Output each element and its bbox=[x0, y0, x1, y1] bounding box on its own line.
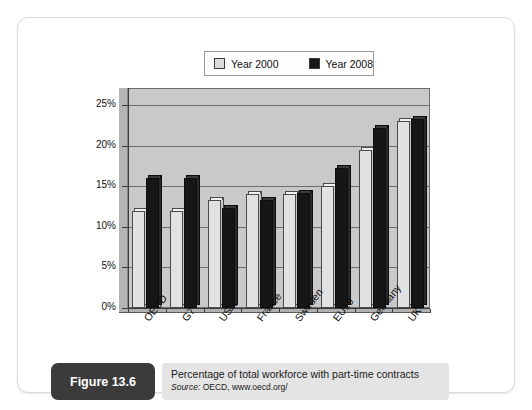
bar-side-face bbox=[235, 205, 238, 305]
bar-front-face bbox=[260, 200, 273, 308]
x-axis-tick bbox=[128, 309, 129, 313]
x-axis-tick bbox=[430, 309, 431, 313]
x-axis-tick bbox=[317, 309, 318, 313]
bar-sweden-year-2008 bbox=[297, 193, 310, 308]
bar-front-face bbox=[283, 194, 296, 308]
bar-oecd-year-2008 bbox=[146, 178, 159, 308]
x-axis-tick bbox=[392, 309, 393, 313]
caption-panel: Percentage of total workforce with part-… bbox=[162, 363, 449, 400]
figure-number-badge: Figure 13.6 bbox=[51, 363, 155, 400]
bar-side-face bbox=[273, 197, 276, 305]
bar-sweden-year-2000 bbox=[283, 194, 296, 308]
source-prefix: Source: bbox=[171, 382, 200, 392]
bar-front-face bbox=[132, 211, 145, 308]
bar-germany-year-2000 bbox=[359, 150, 372, 308]
x-axis-tick bbox=[204, 309, 205, 313]
bar-france-year-2008 bbox=[260, 200, 273, 308]
bar-usa-year-2008 bbox=[222, 208, 235, 308]
bar-germany-year-2008 bbox=[373, 128, 386, 308]
figure-screenshot: Year 2000 Year 2008 0%5%10%15%20%25% OEC… bbox=[0, 0, 532, 410]
bar-g7-year-2008 bbox=[184, 178, 197, 308]
bar-series-container bbox=[18, 18, 516, 394]
caption-source: Source: OECD, www.oecd.org/ bbox=[171, 381, 449, 393]
bar-front-face bbox=[321, 186, 334, 308]
bar-uk-year-2008 bbox=[411, 119, 424, 308]
bar-front-face bbox=[411, 119, 424, 308]
caption-title: Percentage of total workforce with part-… bbox=[171, 368, 449, 381]
bar-eu19-year-2008 bbox=[335, 168, 348, 308]
bar-front-face bbox=[297, 193, 310, 308]
bar-front-face bbox=[208, 200, 221, 308]
bar-usa-year-2000 bbox=[208, 200, 221, 308]
bar-front-face bbox=[170, 211, 183, 308]
bar-front-face bbox=[184, 178, 197, 308]
bar-side-face bbox=[159, 175, 162, 305]
source-text: OECD, www.oecd.org/ bbox=[200, 382, 287, 392]
bar-front-face bbox=[246, 194, 259, 308]
x-axis-tick bbox=[166, 309, 167, 313]
bar-side-face bbox=[197, 175, 200, 305]
figure-card: Year 2000 Year 2008 0%5%10%15%20%25% OEC… bbox=[17, 17, 515, 393]
bar-side-face bbox=[386, 125, 389, 305]
bar-front-face bbox=[397, 121, 410, 308]
bar-front-face bbox=[359, 150, 372, 308]
caption: Figure 13.6 Percentage of total workforc… bbox=[51, 363, 449, 400]
bar-eu19-year-2000 bbox=[321, 186, 334, 308]
x-axis-tick bbox=[241, 309, 242, 313]
bar-chart: 0%5%10%15%20%25% OECDG7USAFranceSwedenEU… bbox=[18, 18, 516, 394]
bar-front-face bbox=[373, 128, 386, 308]
bar-france-year-2000 bbox=[246, 194, 259, 308]
x-axis-tick bbox=[279, 309, 280, 313]
bar-g7-year-2000 bbox=[170, 211, 183, 308]
bar-side-face bbox=[424, 116, 427, 305]
bar-uk-year-2000 bbox=[397, 121, 410, 308]
bar-oecd-year-2000 bbox=[132, 211, 145, 308]
x-axis-tick bbox=[355, 309, 356, 313]
bar-front-face bbox=[222, 208, 235, 308]
bar-front-face bbox=[146, 178, 159, 308]
bar-front-face bbox=[335, 168, 348, 308]
bar-side-face bbox=[348, 165, 351, 305]
